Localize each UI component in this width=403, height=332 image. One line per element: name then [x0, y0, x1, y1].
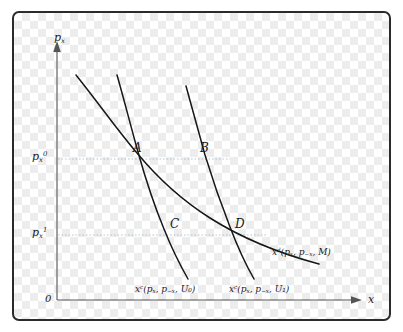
curve-label-hicksian-demand-u0: xc(px, p−x, U₀): [135, 285, 195, 294]
point-label-d: D: [235, 218, 245, 230]
hicksian-demand-curve-u1: [186, 86, 254, 279]
y-axis-label: px: [54, 32, 65, 43]
figure-frame: px x 0 px0 px1 A B C D xd(px, p−x, M) xc…: [12, 11, 391, 321]
point-label-a: A: [133, 142, 142, 154]
marshallian-demand-curve: [76, 75, 319, 264]
demand-curve-plot: [14, 13, 391, 321]
origin-label: 0: [45, 294, 51, 304]
curve-label-hicksian-demand-u1: xc(px, p−x, U₁): [229, 285, 289, 294]
curve-label-marshallian-demand: xd(px, p−x, M): [272, 248, 331, 257]
price-level-label-p0: px0: [32, 151, 47, 162]
x-axis-label: x: [368, 294, 374, 305]
point-label-b: B: [200, 142, 209, 154]
price-level-label-p1: px1: [32, 227, 47, 238]
point-label-c: C: [170, 218, 179, 230]
hicksian-demand-curve-u0: [117, 75, 188, 279]
x-axis-arrow-icon: [351, 296, 362, 304]
